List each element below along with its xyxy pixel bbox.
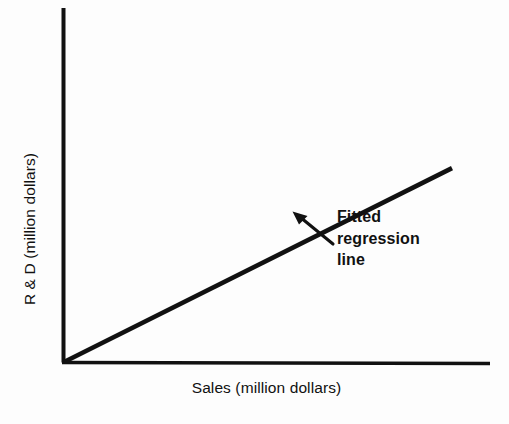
x-axis-line bbox=[62, 363, 490, 364]
regression-figure: Fitted regression line Sales (million do… bbox=[0, 0, 509, 424]
x-axis-title: Sales (million dollars) bbox=[0, 380, 509, 396]
y-axis-title: R & D (million dollars) bbox=[0, 0, 60, 424]
plot-area bbox=[0, 0, 509, 424]
annotation-label: Fitted regression line bbox=[337, 206, 420, 271]
annotation-line-3: line bbox=[337, 249, 420, 271]
annotation-line-2: regression bbox=[337, 228, 420, 250]
annotation-line-1: Fitted bbox=[337, 206, 420, 228]
